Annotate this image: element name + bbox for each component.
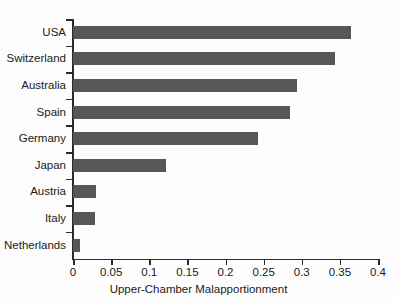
x-tick-label: 0.1 <box>141 266 157 279</box>
bar-italy <box>73 212 95 225</box>
y-axis-label-japan: Japan <box>35 159 66 172</box>
x-tick-label: 0.2 <box>218 266 234 279</box>
y-tick <box>66 232 72 234</box>
bar-japan <box>73 159 166 172</box>
y-axis-label-spain: Spain <box>37 106 66 119</box>
bar-austria <box>73 185 96 198</box>
y-axis-label-italy: Italy <box>45 212 66 225</box>
x-tick <box>264 259 266 265</box>
x-tick-label: 0.15 <box>176 266 198 279</box>
bar-netherlands <box>73 239 80 252</box>
y-tick <box>66 152 72 154</box>
y-axis-label-australia: Australia <box>21 79 66 92</box>
x-tick <box>226 259 228 265</box>
y-tick <box>66 125 72 127</box>
x-tick <box>378 259 380 265</box>
y-tick <box>66 205 72 207</box>
x-tick <box>111 259 113 265</box>
y-axis-label-netherlands: Netherlands <box>4 239 66 252</box>
y-axis-label-usa: USA <box>42 26 66 39</box>
x-axis-title: Upper-Chamber Malapportionment <box>0 283 397 296</box>
y-axis-label-germany: Germany <box>19 132 66 145</box>
bar-australia <box>73 79 297 92</box>
bar-chart: USASwitzerlandAustraliaSpainGermanyJapan… <box>0 0 397 300</box>
x-tick-label: 0.35 <box>329 266 351 279</box>
bar-spain <box>73 106 290 119</box>
y-tick <box>66 19 72 21</box>
bar-switzerland <box>73 52 335 65</box>
x-tick-label: 0.05 <box>100 266 122 279</box>
x-tick-label: 0.25 <box>252 266 274 279</box>
x-tick <box>73 259 75 265</box>
y-axis-label-austria: Austria <box>30 185 66 198</box>
x-tick-label: 0.3 <box>294 266 310 279</box>
y-axis-label-switzerland: Switzerland <box>7 52 66 65</box>
y-tick <box>66 99 72 101</box>
x-tick-label: 0 <box>70 266 76 279</box>
x-tick <box>340 259 342 265</box>
x-tick <box>302 259 304 265</box>
bar-usa <box>73 26 351 39</box>
y-tick <box>66 179 72 181</box>
x-tick <box>149 259 151 265</box>
bar-germany <box>73 132 258 145</box>
y-tick <box>66 46 72 48</box>
y-tick <box>66 72 72 74</box>
x-tick-label: 0.4 <box>370 266 386 279</box>
x-tick <box>187 259 189 265</box>
